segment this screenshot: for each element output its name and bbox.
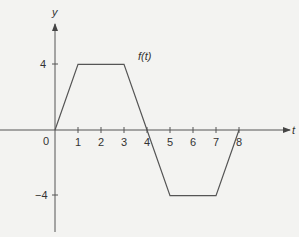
x-tick-label-3: 3 bbox=[121, 136, 127, 148]
y-tick-neg4: −4 bbox=[35, 189, 48, 201]
y-tick-4: 4 bbox=[40, 58, 46, 70]
x-tick-labels: 12345678 bbox=[75, 136, 242, 148]
x-tick-label-4: 4 bbox=[144, 136, 150, 148]
x-tick-label-5: 5 bbox=[167, 136, 173, 148]
x-tick-label-1: 1 bbox=[75, 136, 81, 148]
x-tick-label-6: 6 bbox=[190, 136, 196, 148]
x-tick-label-7: 7 bbox=[213, 136, 219, 148]
x-tick-label-2: 2 bbox=[98, 136, 104, 148]
y-axis-label: y bbox=[51, 6, 59, 18]
plot-svg: y t 0 f(t) 4 −4 12345678 bbox=[0, 0, 299, 237]
origin-label: 0 bbox=[43, 135, 49, 147]
x-axis-label: t bbox=[292, 124, 296, 136]
chart: y t 0 f(t) 4 −4 12345678 bbox=[0, 0, 299, 237]
x-tick-label-8: 8 bbox=[236, 136, 242, 148]
curve-label: f(t) bbox=[138, 50, 152, 62]
